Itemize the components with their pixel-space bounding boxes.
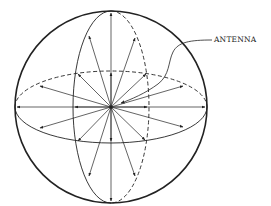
antenna-sphere-diagram [0, 0, 271, 206]
antenna-point [109, 105, 112, 108]
antenna-label: ANTENNA [214, 35, 256, 44]
antenna-leader-line [121, 40, 212, 103]
